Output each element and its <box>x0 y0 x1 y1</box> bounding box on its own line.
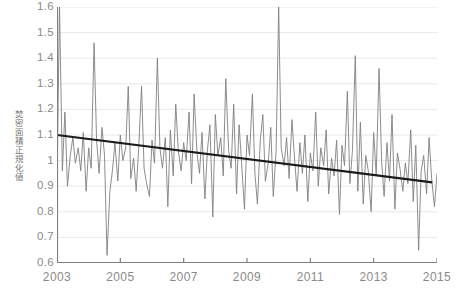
x-tick-label: 2005 <box>106 270 134 284</box>
x-tick-label: 2003 <box>43 270 71 284</box>
y-tick-label: 0.6 <box>20 256 54 268</box>
x-tick-label: 2011 <box>297 270 324 284</box>
plot-area <box>57 7 437 263</box>
y-tick-label: 1 <box>20 154 54 166</box>
chart-svg <box>57 7 437 263</box>
y-tick-label: 0.7 <box>20 230 54 242</box>
chart-figure: 焚密面積正規化値 1.61.51.41.31.21.110.90.80.70.6… <box>0 0 463 292</box>
y-tick-label: 0.8 <box>20 205 54 217</box>
data-series-line <box>57 7 437 255</box>
x-tick-label: 2015 <box>423 270 451 284</box>
gridlines <box>57 7 437 237</box>
x-tick-label: 2007 <box>170 270 198 284</box>
y-tick-label: 1.6 <box>20 0 54 12</box>
y-tick-label: 1.3 <box>20 77 54 89</box>
series-polyline <box>57 7 437 255</box>
y-tick-label: 1.2 <box>20 102 54 114</box>
x-tick-label: 2013 <box>360 270 388 284</box>
y-tick-label: 0.9 <box>20 179 54 191</box>
x-tick-label: 2009 <box>233 270 261 284</box>
y-tick-label: 1.4 <box>20 51 54 63</box>
y-tick-label: 1.5 <box>20 26 54 38</box>
y-tick-label: 1.1 <box>20 128 54 140</box>
y-axis-tick-labels: 1.61.51.41.31.21.110.90.80.70.6 <box>18 0 54 292</box>
